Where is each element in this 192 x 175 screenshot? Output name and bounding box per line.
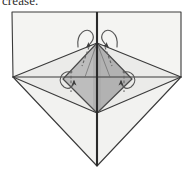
origami-figure: crease. <box>0 0 192 175</box>
origami-diagram <box>0 0 192 175</box>
